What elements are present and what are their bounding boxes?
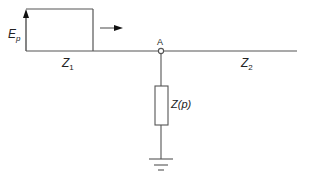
direction-arrow-icon xyxy=(100,25,123,31)
ground-icon xyxy=(149,159,173,170)
node-label: A xyxy=(157,37,163,47)
shunt-label: Z(p) xyxy=(170,98,192,110)
impedance-box xyxy=(155,86,168,125)
source-label: Ep xyxy=(8,27,21,43)
circuit-diagram: Ep Z1 Z2 A Z(p) xyxy=(0,0,309,180)
voltage-arrow-icon xyxy=(23,9,29,51)
node-a xyxy=(158,48,163,53)
z2-label: Z2 xyxy=(240,56,253,72)
z1-label: Z1 xyxy=(61,56,74,72)
surge-wave xyxy=(26,9,93,51)
